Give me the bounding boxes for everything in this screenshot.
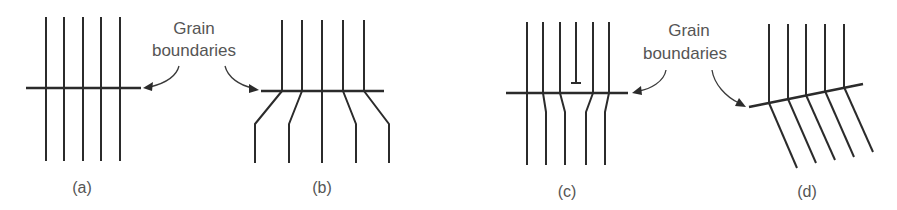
panel-b: (b) xyxy=(255,20,389,196)
panel-a: (a) xyxy=(26,17,141,196)
arrow-to-c-icon xyxy=(639,70,666,91)
arrowhead-a-icon xyxy=(143,82,153,91)
caption-c: (c) xyxy=(558,183,577,200)
caption-a: (a) xyxy=(72,179,92,196)
label-left: Grain boundaries xyxy=(143,19,259,93)
panel-c: (c) xyxy=(506,22,628,200)
arrow-to-a-icon xyxy=(150,66,179,87)
label-left-line2: boundaries xyxy=(152,41,236,60)
panel-d: (d) xyxy=(749,24,873,200)
grain-boundary-diagram: (a) Grain boundaries (b) (c) xyxy=(0,0,897,210)
label-right-line2: boundaries xyxy=(643,44,727,63)
caption-d: (d) xyxy=(797,183,817,200)
arrowhead-c-icon xyxy=(632,86,642,95)
label-right: Grain boundaries xyxy=(632,21,746,107)
arrow-to-b-icon xyxy=(225,66,252,88)
caption-b: (b) xyxy=(312,179,332,196)
label-right-line1: Grain xyxy=(668,21,710,40)
arrow-to-d-icon xyxy=(712,70,739,103)
label-left-line1: Grain xyxy=(173,19,215,38)
arrowhead-b-icon xyxy=(249,84,259,93)
